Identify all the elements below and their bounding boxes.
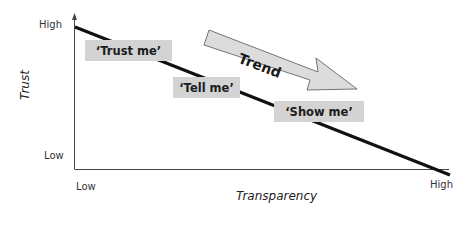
x-axis-title: Transparency xyxy=(236,189,317,203)
y-tick-low: Low xyxy=(44,150,64,161)
trust-me-label: ‘Trust me’ xyxy=(85,40,172,61)
tell-me-label: ‘Tell me’ xyxy=(173,77,240,98)
x-tick-high: High xyxy=(430,179,453,190)
x-tick-low: Low xyxy=(76,181,96,192)
show-me-label: ‘Show me’ xyxy=(274,101,364,122)
y-axis-arrowhead-icon xyxy=(72,13,77,20)
y-axis-title: Trust xyxy=(18,70,32,100)
y-tick-high: High xyxy=(39,19,62,30)
